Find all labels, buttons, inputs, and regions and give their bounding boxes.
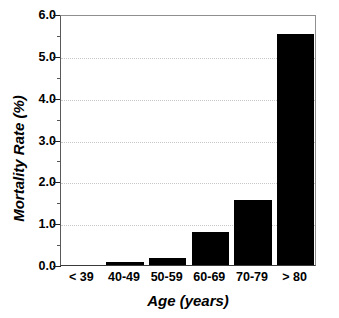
bar-series (61, 16, 315, 265)
y-axis-tick-labels: 0.01.02.03.04.05.06.0 (22, 8, 56, 274)
bar (149, 258, 187, 265)
x-tick-label: > 80 (273, 270, 316, 284)
bar (277, 34, 315, 265)
x-tick-label: 60-69 (188, 270, 231, 284)
y-tick-label: 2.0 (22, 175, 56, 189)
bar (234, 200, 272, 265)
x-tick-label: 50-59 (145, 270, 188, 284)
x-tick-label: 40-49 (103, 270, 146, 284)
x-axis-title: Age (years) (60, 292, 316, 309)
y-tick-label: 4.0 (22, 92, 56, 106)
bar (106, 262, 144, 265)
x-tick-label: 70-79 (231, 270, 274, 284)
x-axis-tick-labels: < 3940-4950-5960-6970-79> 80 (60, 270, 316, 290)
bar-chart-figure: Mortality Rate (%) 0.01.02.03.04.05.06.0… (0, 0, 339, 318)
y-tick-label: 3.0 (22, 134, 56, 148)
y-tick-label: 5.0 (22, 50, 56, 64)
y-tick-label: 0.0 (22, 259, 56, 273)
plot-area (60, 15, 316, 266)
x-tick-label: < 39 (60, 270, 103, 284)
bar (192, 232, 230, 265)
y-tick-major (53, 266, 61, 267)
y-tick-label: 1.0 (22, 217, 56, 231)
y-tick-label: 6.0 (22, 8, 56, 22)
